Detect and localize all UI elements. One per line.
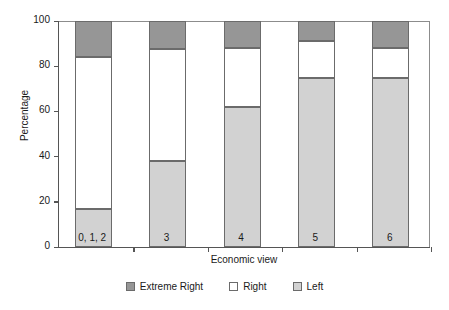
chart-figure: Percentage 020406080100 Economic view Ex…	[0, 0, 449, 310]
legend-item[interactable]: Extreme Right	[126, 281, 203, 292]
bar-segment-extreme-right[interactable]	[75, 21, 112, 57]
legend-swatch-icon	[293, 282, 302, 291]
bar-stack[interactable]	[298, 21, 335, 247]
legend-label: Right	[243, 281, 266, 292]
x-category-label: 6	[387, 232, 393, 243]
bar-stack[interactable]	[75, 21, 112, 247]
y-tick-mark	[54, 111, 59, 112]
bar-segment-extreme-right[interactable]	[224, 21, 261, 48]
bar-segment-extreme-right[interactable]	[372, 21, 409, 48]
bar-segment-extreme-right[interactable]	[149, 21, 186, 49]
x-category-label: 3	[164, 232, 170, 243]
x-axis-tick-mark	[282, 247, 283, 252]
legend-swatch-icon	[126, 282, 135, 291]
x-category-label: 0, 1, 2	[78, 232, 106, 243]
y-tick-label: 0	[44, 240, 50, 251]
x-axis-tick-mark	[208, 247, 209, 252]
bar-stack[interactable]	[372, 21, 409, 247]
y-tick-mark	[54, 247, 59, 248]
bar-segment-right[interactable]	[75, 57, 112, 208]
x-axis-tick-mark	[357, 247, 358, 252]
y-tick-mark	[54, 156, 59, 157]
bar-segment-right[interactable]	[149, 49, 186, 161]
chart-legend: Extreme RightRightLeft	[0, 281, 449, 292]
x-axis-tick-mark	[133, 247, 134, 252]
y-tick-mark	[54, 66, 59, 67]
y-tick-label: 20	[39, 195, 50, 206]
x-category-label: 5	[313, 232, 319, 243]
bar-segment-right[interactable]	[372, 48, 409, 77]
bar-segment-left[interactable]	[372, 78, 409, 248]
x-category-label: 4	[238, 232, 244, 243]
y-tick-label: 40	[39, 150, 50, 161]
y-axis-title: Percentage	[19, 56, 30, 176]
plot-area: 020406080100	[58, 21, 430, 248]
bar-segment-extreme-right[interactable]	[298, 21, 335, 41]
y-tick-label: 80	[39, 59, 50, 70]
x-axis-title: Economic view	[58, 254, 430, 265]
bar-segment-right[interactable]	[298, 41, 335, 77]
legend-item[interactable]: Right	[229, 281, 266, 292]
legend-label: Left	[307, 281, 324, 292]
legend-swatch-icon	[229, 282, 238, 291]
y-tick-label: 60	[39, 104, 50, 115]
bar-segment-right[interactable]	[224, 48, 261, 107]
legend-label: Extreme Right	[140, 281, 203, 292]
y-tick-mark	[54, 21, 59, 22]
legend-item[interactable]: Left	[293, 281, 324, 292]
bar-segment-left[interactable]	[224, 107, 261, 247]
y-tick-label: 100	[33, 14, 50, 25]
bar-stack[interactable]	[149, 21, 186, 247]
bar-stack[interactable]	[224, 21, 261, 247]
bar-segment-left[interactable]	[298, 78, 335, 248]
x-axis-tick-mark	[431, 247, 432, 252]
y-tick-mark	[54, 201, 59, 202]
